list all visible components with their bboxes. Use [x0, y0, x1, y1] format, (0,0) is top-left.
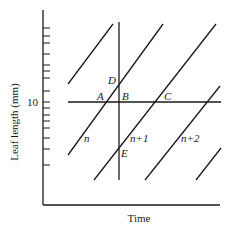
- point-label-c: C: [164, 90, 172, 102]
- point-label-e: E: [120, 147, 128, 159]
- leaf-growth-diagram: 10 Leaf length (mm) Time D A B C E n n+1…: [0, 0, 234, 229]
- leaf-label-n: n: [84, 132, 90, 144]
- y-tick-label-10: 10: [27, 96, 39, 108]
- leaf-label-n-plus-1: n+1: [130, 132, 148, 144]
- point-label-d: D: [107, 74, 116, 86]
- growth-line-n-minus-1: [68, 24, 113, 84]
- point-label-a: A: [96, 90, 104, 102]
- growth-line-n-plus-3: [196, 148, 221, 180]
- x-axis-label: Time: [128, 212, 151, 224]
- y-axis-ticks: [43, 28, 50, 165]
- point-label-b: B: [122, 90, 129, 102]
- y-axis-label: Leaf length (mm): [8, 83, 21, 161]
- growth-line-n: [68, 24, 163, 155]
- leaf-label-n-plus-2: n+2: [181, 132, 200, 144]
